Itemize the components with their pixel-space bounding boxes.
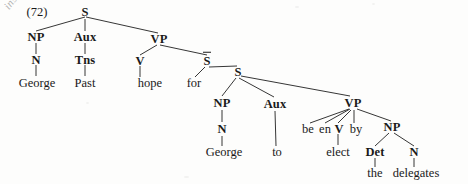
node-n-object: N — [409, 146, 418, 159]
scan-speck — [184, 176, 189, 178]
word-george-embedded: George — [206, 146, 243, 159]
figure-number: (72) — [27, 6, 48, 19]
morph-en: en — [319, 123, 331, 136]
node-np-subject: NP — [28, 31, 45, 44]
morph-be: be — [302, 123, 314, 136]
word-elect: elect — [326, 146, 350, 159]
node-aux-embedded: Aux — [264, 98, 287, 111]
node-det: Det — [365, 146, 384, 159]
macron-overline — [203, 51, 211, 52]
node-v-elect: V — [334, 123, 343, 136]
word-george-matrix: George — [19, 77, 56, 90]
node-vp-embedded: VP — [345, 97, 362, 110]
word-hope: hope — [138, 77, 162, 90]
word-past: Past — [75, 77, 96, 90]
node-np-object: NP — [384, 121, 401, 134]
scan-speck — [372, 3, 375, 5]
node-n-embedded-subject: N — [217, 123, 226, 136]
scan-speck — [295, 6, 299, 8]
word-delegates: delegates — [393, 167, 440, 180]
syntax-tree-figure: insertion — [0, 0, 468, 184]
morph-by: by — [350, 123, 363, 136]
node-s-bar: S — [0, 55, 441, 68]
node-aux-matrix: Aux — [74, 31, 97, 44]
node-np-embedded-subject: NP — [214, 97, 231, 110]
node-s-bar-label: S — [203, 54, 210, 68]
node-vp-matrix: VP — [151, 33, 168, 46]
word-to: to — [272, 146, 282, 159]
word-the: the — [367, 167, 382, 180]
node-s-top: S — [81, 6, 88, 19]
scan-speck — [86, 102, 89, 104]
word-for: for — [187, 77, 202, 90]
node-s-embedded: S — [234, 66, 241, 79]
